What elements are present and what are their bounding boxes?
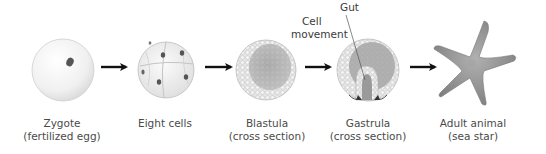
zygote-illustration [32, 39, 94, 101]
stage-name: Zygote [23, 117, 100, 130]
blastula-illustration [236, 40, 296, 100]
stage-name: Blastula [229, 117, 306, 130]
stage-subtitle: (sea star) [440, 130, 506, 143]
stage-label-gastrula: Gastrula (cross section) [330, 117, 407, 143]
gut-callout: Gut [340, 1, 359, 13]
stage-label-zygote: Zygote (fertilized egg) [23, 117, 100, 143]
stage-name: Gastrula [330, 117, 407, 130]
stage-label-blastula: Blastula (cross section) [229, 117, 306, 143]
cell-movement-callout-line1: Cell [302, 15, 322, 27]
stage-subtitle: (cross section) [330, 130, 407, 143]
stage-label-eight-cells: Eight cells [138, 117, 192, 130]
cell-movement-callout-line2: movement [291, 28, 348, 40]
stage-subtitle: (cross section) [229, 130, 306, 143]
sea-star-illustration [434, 21, 516, 105]
stage-name: Eight cells [138, 117, 192, 130]
eight-cells-illustration [138, 41, 194, 98]
stage-label-adult: Adult animal (sea star) [440, 117, 506, 143]
stage-subtitle: (fertilized egg) [23, 130, 100, 143]
stage-name: Adult animal [440, 117, 506, 130]
